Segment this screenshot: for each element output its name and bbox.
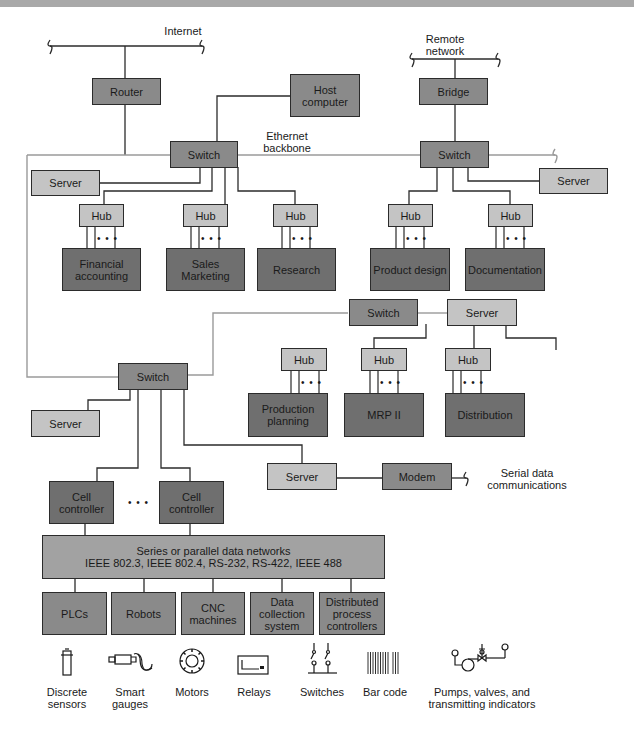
hub-financial[interactable]: Hub xyxy=(79,204,124,227)
ellipsis: • • • xyxy=(506,233,527,244)
cnc-machines-node[interactable]: CNC machines xyxy=(181,592,245,635)
cell-controller-1[interactable]: Cell controller xyxy=(49,481,114,524)
financial-accounting-node[interactable]: Financial accounting xyxy=(62,248,141,291)
barcode-icon xyxy=(367,652,403,674)
data-networks-bus[interactable]: Series or parallel data networks IEEE 80… xyxy=(42,535,385,579)
plcs-node[interactable]: PLCs xyxy=(42,592,107,635)
device-label: Relays xyxy=(227,686,281,698)
device-label: Bar code xyxy=(357,686,413,698)
documentation-node[interactable]: Documentation xyxy=(465,248,545,291)
switch-icon xyxy=(306,642,338,676)
ellipsis: • • • xyxy=(97,233,118,244)
product-design-node[interactable]: Product design xyxy=(370,248,450,291)
server-modem-node[interactable]: Server xyxy=(267,463,337,490)
device-label: Discrete sensors xyxy=(40,686,94,710)
modem-node[interactable]: Modem xyxy=(382,463,452,490)
sales-marketing-node[interactable]: Sales Marketing xyxy=(166,248,245,291)
motor-icon xyxy=(177,646,207,676)
robots-node[interactable]: Robots xyxy=(111,592,176,635)
server-mid-node[interactable]: Server xyxy=(447,299,517,326)
hub-research[interactable]: Hub xyxy=(273,204,318,227)
device-label: Pumps, valves, and transmitting indicato… xyxy=(422,686,542,710)
ellipsis: • • • xyxy=(301,377,322,388)
distribution-node[interactable]: Distribution xyxy=(445,393,525,437)
hub-documentation[interactable]: Hub xyxy=(488,204,533,227)
pump-valve-icon xyxy=(450,643,512,677)
relay-icon xyxy=(237,655,269,675)
host-computer-node[interactable]: Host computer xyxy=(290,74,360,117)
ellipsis: • • • xyxy=(128,497,149,508)
internet-label: Internet xyxy=(148,25,218,37)
data-networks-protocols: IEEE 802.3, IEEE 802.4, RS-232, RS-422, … xyxy=(85,557,342,569)
bridge-node[interactable]: Bridge xyxy=(419,78,488,105)
switch-factory-node[interactable]: Switch xyxy=(118,363,188,390)
ellipsis: • • • xyxy=(201,233,222,244)
device-label: Smart gauges xyxy=(105,686,155,710)
hub-mrp[interactable]: Hub xyxy=(361,348,407,371)
ellipsis: • • • xyxy=(463,377,484,388)
distributed-controllers-node[interactable]: Distributed process controllers xyxy=(319,592,385,635)
server-right-top-node[interactable]: Server xyxy=(539,168,608,194)
hub-product[interactable]: Hub xyxy=(388,204,433,227)
gauge-icon xyxy=(108,650,154,676)
server-left-top-node[interactable]: Server xyxy=(31,170,100,196)
research-node[interactable]: Research xyxy=(257,248,336,291)
switch-mid-node[interactable]: Switch xyxy=(349,299,418,326)
device-label: Motors xyxy=(165,686,219,698)
sensor-icon xyxy=(60,648,74,678)
hub-sales[interactable]: Hub xyxy=(183,204,228,227)
hub-distribution[interactable]: Hub xyxy=(445,348,491,371)
ellipsis: • • • xyxy=(406,233,427,244)
data-networks-title: Series or parallel data networks xyxy=(136,545,290,557)
ellipsis: • • • xyxy=(292,233,313,244)
server-factory-left-node[interactable]: Server xyxy=(31,410,100,437)
remote-network-label: Remote network xyxy=(420,33,470,57)
cell-controller-2[interactable]: Cell controller xyxy=(159,481,224,524)
device-label: Switches xyxy=(292,686,352,698)
switch-main-node[interactable]: Switch xyxy=(170,141,238,168)
switch-right-node[interactable]: Switch xyxy=(420,141,489,168)
router-node[interactable]: Router xyxy=(92,78,161,105)
hub-production[interactable]: Hub xyxy=(281,348,327,371)
mrp-ii-node[interactable]: MRP II xyxy=(344,393,424,437)
data-collection-node[interactable]: Data collection system xyxy=(250,592,314,635)
production-planning-node[interactable]: Production planning xyxy=(248,393,328,437)
ethernet-backbone-label: Ethernet backbone xyxy=(262,130,312,154)
ellipsis: • • • xyxy=(380,377,401,388)
serial-data-label: Serial data communications xyxy=(472,467,582,491)
